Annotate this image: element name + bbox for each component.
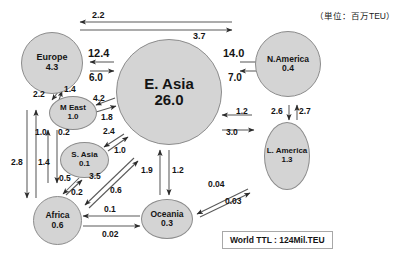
flow-label-namerica-lamerica: 2.6 xyxy=(271,107,283,116)
node-eastasia-label: E. Asia xyxy=(144,76,193,92)
node-africa[interactable]: Africa 0.6 xyxy=(33,196,82,245)
flow-label-sasia-eastasia: 1.0 xyxy=(114,146,126,155)
flow-label-oceania-eastasia: 1.9 xyxy=(141,166,153,175)
flow-label-eastasia-namerica: 14.0 xyxy=(223,48,244,59)
node-eastasia-value: 26.0 xyxy=(154,92,183,108)
flow-label-europe-eastasia: 6.0 xyxy=(89,73,103,83)
node-oceania-value: 0.3 xyxy=(161,219,173,228)
node-sasia-value: 0.1 xyxy=(79,160,90,169)
node-africa-value: 0.6 xyxy=(52,221,64,230)
flow-label-namerica-eastasia: 7.0 xyxy=(228,73,242,83)
flow-label-lamerica-namerica: 2.7 xyxy=(299,107,311,116)
node-namerica[interactable]: N.America 0.4 xyxy=(255,31,321,97)
node-oceania[interactable]: Oceania 0.3 xyxy=(141,199,193,239)
world-total-box: World TTL : 124Mil.TEU xyxy=(222,231,333,249)
flow-label-meast-eastasia: 1.8 xyxy=(101,113,113,122)
flow-label-africa-europe: 1.4 xyxy=(38,158,50,167)
flow-label-eastasia-sasia: 2.4 xyxy=(103,127,115,136)
flow-label-africa-meast: 0.2 xyxy=(58,128,70,137)
flow-label-eastasia-africa: 3.5 xyxy=(89,172,101,181)
flow-label-oceania-africa: 0.1 xyxy=(104,205,116,214)
flow-label-oceania-lamerica: 0.03 xyxy=(225,197,242,206)
flow-label-meast-europe: 1.4 xyxy=(64,85,76,94)
flow-label-africa-eastasia: 0.6 xyxy=(110,186,122,195)
node-meast[interactable]: M East 1.0 xyxy=(49,96,97,130)
flow-label-europe-namerica: 3.7 xyxy=(193,32,206,41)
node-meast-value: 1.0 xyxy=(67,113,78,122)
node-eastasia[interactable]: E. Asia 26.0 xyxy=(116,39,222,145)
flow-label-eastasia-lamerica: 3.0 xyxy=(226,128,238,137)
node-lamerica[interactable]: L. America 1.3 xyxy=(264,122,310,190)
node-namerica-value: 0.4 xyxy=(282,64,294,73)
node-europe-value: 4.3 xyxy=(46,63,59,73)
flow-label-europe-meast: 2.2 xyxy=(33,90,45,99)
flow-label-lamerica-eastasia: 1.2 xyxy=(236,107,248,116)
trade-flow-diagram: Europe 4.3 E. Asia 26.0 N.America 0.4 M … xyxy=(0,0,400,266)
flow-label-europe-africa: 2.8 xyxy=(11,158,23,167)
flow-label-meast-africa: 1.0 xyxy=(35,128,47,137)
flow-label-sasia-africa: 0.5 xyxy=(59,174,71,183)
flow-label-eastasia-meast: 4.2 xyxy=(93,94,105,103)
flow-label-eastasia-oceania: 1.2 xyxy=(172,166,184,175)
flow-label-eastasia-europe: 12.4 xyxy=(88,48,109,59)
unit-note: （単位：百万TEU） xyxy=(315,9,395,21)
flow-label-namerica-europe: 2.2 xyxy=(92,11,105,20)
flow-label-africa-oceania: 0.02 xyxy=(102,230,119,239)
flow-label-lamerica-oceania: 0.04 xyxy=(208,180,225,189)
node-lamerica-value: 1.3 xyxy=(281,156,292,165)
flow-label-africa-sasia: 0.2 xyxy=(71,188,83,197)
